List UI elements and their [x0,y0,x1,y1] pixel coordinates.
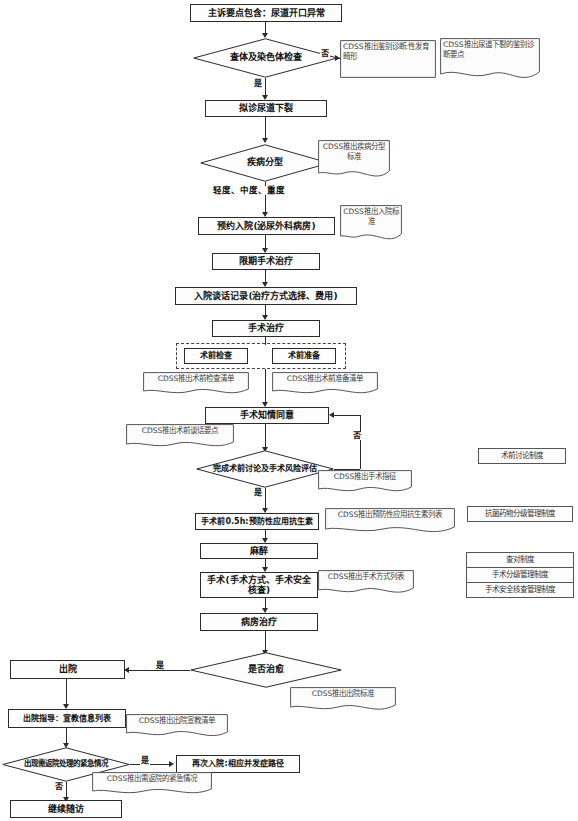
node-cured-decision[interactable]: 是否治愈 [190,652,342,688]
arrowhead-right-2 [169,761,174,767]
note-preop-prep-list: CDSS推出术前准备清单 [272,372,378,396]
note-hypospadias-dx-points: CDSS推出尿道下裂的鉴别诊断要点 [440,38,540,82]
edge-emergency-no [66,782,67,798]
edge-guidance-to-emergency [66,728,67,744]
note-discharge-education-list-text: CDSS推出出院宣教清单 [129,716,225,726]
note-discharge-standard-text: CDSS推出出院标准 [293,689,393,699]
node-cured-decision-label: 是否治愈 [190,652,342,688]
note-typing-standard: CDSS推出疾病分型标准 [318,140,390,180]
edge-label-emergency-yes: 是 [140,757,150,765]
node-preop-exam[interactable]: 术前检查 [184,348,248,364]
edge-label-exam-yes: 是 [253,80,263,88]
node-preop-prep[interactable]: 术前准备 [272,348,336,364]
note-emergency-list-text: CDSS推出需返院的紧急情况 [95,774,209,784]
node-exam-decision-label: 查体及染色体检查 [193,38,338,78]
regulation-checklist-1: 手术分级管理制度 [466,567,574,583]
edge-discussion-yes [265,488,266,509]
note-antibiotic-list: CDSS推出预防性应用抗生素列表 [325,508,455,536]
note-preop-exam-list-text: CDSS推出术前检查清单 [146,374,246,384]
edge-cured-yes [128,670,190,671]
arrowhead-down-3 [262,138,268,143]
node-admission-booking[interactable]: 预约入院(泌尿外科病房) [198,217,335,235]
note-preop-talk-points: CDSS推出术前谈话要点 [126,424,234,449]
edge-label-cured-yes: 是 [155,662,165,670]
node-discharge[interactable]: 出院 [10,660,125,679]
note-preop-prep-list-text: CDSS推出术前准备清单 [275,374,375,384]
node-anesthesia[interactable]: 麻醉 [200,543,318,559]
regulation-checklist-0: 查对制度 [466,552,574,568]
node-discharge-guidance[interactable]: 出院指导：宣教信息列表 [8,709,126,728]
node-readmission[interactable]: 再次入院:相应并发症路径 [176,755,300,773]
note-differential-dx-text: CDSS推出鉴别诊断:性发育畸形 [343,42,433,61]
node-disease-typing-label: 疾病分型 [200,144,330,182]
node-presumptive-dx[interactable]: 拟诊尿道下裂 [205,100,327,117]
edge-label-severity: 轻度、中度、重度 [212,186,286,195]
edge-discharge-to-guidance [66,679,67,705]
edge-label-consent-no: 否 [352,432,362,440]
note-preop-exam-list: CDSS推出术前检查清单 [143,372,249,396]
edge-emergency-yes [130,764,172,765]
node-antibiotic-prophylaxis[interactable]: 手术前0.5h:预防性应用抗生素 [195,513,319,530]
note-surgery-method-list: CDSS推出手术方式列表 [318,570,414,596]
edge-dx-to-typing [265,117,266,139]
edge-consent-to-discussion [265,424,266,448]
node-exam-decision[interactable]: 查体及染色体检查 [193,38,338,78]
edge-admission-to-timed [265,235,266,249]
note-discharge-standard: CDSS推出出院标准 [290,687,396,713]
regulation-preop-discussion: 术前讨论制度 [478,448,566,464]
flowchart-canvas: 主诉要点包含：尿道开口异常 查体及染色体检查 否 CDSS推出鉴别诊断:性发育畸… [0,0,578,821]
edge-label-discussion-yes: 是 [253,489,263,497]
edge-label-exam-no: 否 [320,50,330,58]
note-hypospadias-dx-points-text: CDSS推出尿道下裂的鉴别诊断要点 [443,40,537,59]
node-timed-surgery[interactable]: 限期手术治疗 [212,253,320,270]
note-discharge-education-list: CDSS推出出院宣教清单 [126,714,228,739]
edge-label-emergency-no: 否 [54,783,64,791]
note-admission-standard-text: CDSS推出入院标准 [343,207,399,226]
note-surgery-method-list-text: CDSS推出手术方式列表 [321,572,411,582]
node-preop-discussion[interactable]: 完成术前讨论及手术风险评估 [196,450,334,488]
note-preop-talk-points-text: CDSS推出术前谈话要点 [129,426,231,436]
note-antibiotic-list-text: CDSS推出预防性应用抗生素列表 [328,510,452,520]
edge-group-to-consent [265,369,266,403]
regulation-checklist-2: 手术安全核查管理制度 [466,582,574,598]
note-differential-dx: CDSS推出鉴别诊断:性发育畸形 [340,40,436,78]
note-surgical-indication: CDSS推出手术指征 [318,470,412,494]
node-admission-talk[interactable]: 入院谈话记录(治疗方式选择、费用) [175,287,357,305]
note-admission-standard: CDSS推出入院标准 [340,205,402,243]
node-chief-complaint[interactable]: 主诉要点包含：尿道开口异常 [190,4,342,22]
note-emergency-list: CDSS推出需返院的紧急情况 [92,772,212,796]
edge-discussion-no-h2 [334,415,360,416]
edge-ward-to-cured [265,631,266,651]
note-surgical-indication-text: CDSS推出手术指征 [321,472,409,482]
regulation-antibiotic-grading: 抗菌药物分级管理制度 [467,506,573,522]
node-surgery[interactable]: 手术(手术方式、手术安全核查) [200,572,318,598]
note-typing-standard-text: CDSS推出疾病分型标准 [321,142,387,161]
arrowhead-left-1 [329,412,334,418]
node-ward-treatment[interactable]: 病房治疗 [200,613,318,631]
node-surgical-treatment[interactable]: 手术治疗 [212,320,320,337]
node-disease-typing[interactable]: 疾病分型 [200,144,330,182]
node-informed-consent[interactable]: 手术知情同意 [205,407,329,424]
edge-exam-yes [265,78,266,96]
edge-discussion-no-v [360,415,361,469]
node-continue-followup[interactable]: 继续随访 [10,800,122,818]
